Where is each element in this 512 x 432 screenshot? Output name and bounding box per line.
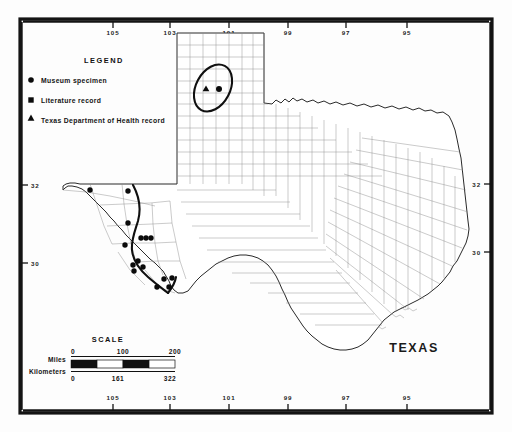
record-point-circle	[135, 258, 140, 263]
state-name-label: TEXAS	[389, 341, 439, 355]
lat-tick-left-0: 32	[31, 182, 40, 189]
lat-tick-right-1: 30	[472, 249, 481, 256]
record-point-circle	[130, 262, 135, 267]
lon-tick-top-0: 105	[106, 29, 119, 36]
scale-title: SCALE	[92, 335, 125, 344]
scale-segment-1	[71, 360, 97, 368]
record-point-circle	[154, 284, 159, 289]
scale-unit-kilometers: Kilometers	[29, 368, 66, 375]
lat-tick-left-1: 30	[31, 260, 40, 267]
lon-tick-top-4: 97	[342, 29, 351, 36]
scale-unit-miles: Miles	[48, 356, 66, 363]
longitude-axis-bottom: 105 103 101 99 97 95	[23, 394, 489, 411]
texas-state-map	[63, 33, 469, 350]
record-point-circle	[138, 235, 143, 240]
scale-bar: SCALE Miles Kilometers 0 100 200 0 161 3…	[29, 335, 181, 382]
latitude-axis-right: 32 30	[472, 22, 490, 410]
record-point-circle	[148, 235, 153, 240]
scale-miles-tick-1: 100	[117, 348, 130, 355]
record-point-circle	[166, 284, 171, 289]
legend-item-label-literature: Literature record	[41, 97, 101, 104]
scale-segment-2	[97, 360, 123, 368]
legend-triangle-icon	[28, 115, 35, 121]
scale-miles-tick-2: 200	[169, 348, 182, 355]
scale-km-tick-2: 322	[164, 375, 177, 382]
legend: LEGEND Museum specimen Literature record…	[28, 56, 165, 125]
lon-tick-bottom-0: 105	[106, 394, 119, 401]
lon-tick-top-1: 103	[163, 29, 176, 36]
scale-segment-3	[123, 360, 149, 368]
record-point-circle	[122, 242, 127, 247]
record-point-circle	[169, 275, 174, 280]
legend-circle-icon	[28, 77, 34, 83]
record-point-circle	[143, 235, 148, 240]
record-point-circle	[161, 276, 166, 281]
legend-item-label-health: Texas Department of Health record	[41, 117, 165, 125]
legend-square-icon	[28, 97, 33, 102]
lon-tick-bottom-3: 99	[284, 394, 293, 401]
lon-tick-bottom-5: 95	[403, 394, 412, 401]
lon-tick-top-5: 95	[403, 29, 412, 36]
record-point-circle	[131, 268, 136, 273]
record-point-circle	[125, 220, 130, 225]
legend-title: LEGEND	[84, 56, 124, 65]
distribution-map-figure: 105 103 101 99 97 95 105 103 101 99 97 9…	[0, 0, 512, 432]
record-point-circle	[216, 86, 222, 92]
scale-km-tick-1: 161	[112, 375, 125, 382]
scale-segment-4	[149, 360, 175, 368]
scale-miles-tick-0: 0	[71, 348, 75, 355]
lon-tick-bottom-2: 101	[222, 394, 235, 401]
record-point-circle	[125, 188, 130, 193]
legend-item-label-museum: Museum specimen	[41, 77, 107, 85]
scale-km-tick-0: 0	[71, 375, 75, 382]
lat-tick-right-0: 32	[472, 181, 481, 188]
lon-tick-bottom-1: 103	[163, 394, 176, 401]
lon-tick-bottom-4: 97	[342, 394, 351, 401]
lon-tick-top-3: 99	[284, 29, 293, 36]
record-point-circle	[140, 264, 145, 269]
record-point-circle	[87, 187, 92, 192]
